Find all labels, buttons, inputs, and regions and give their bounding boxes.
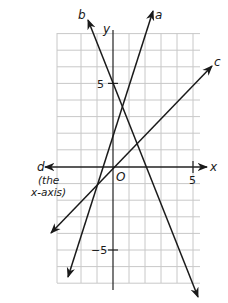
x-tick-5-label: 5 xyxy=(189,174,196,187)
y-axis-label: y xyxy=(102,22,111,36)
line-c-label: c xyxy=(214,55,221,69)
coordinate-plane: a b c d (the x-axis) y x O 5 5 −5 xyxy=(0,0,228,303)
y-tick-5-label: 5 xyxy=(97,78,104,91)
origin-label: O xyxy=(116,170,125,184)
line-d-note-2: x-axis) xyxy=(30,186,66,198)
line-b-label: b xyxy=(78,8,86,22)
y-tick-neg5-label: −5 xyxy=(91,244,107,257)
line-a-label: a xyxy=(155,8,162,22)
line-d-label: d xyxy=(37,160,45,174)
line-d-note-1: (the xyxy=(38,174,59,186)
x-axis-label: x xyxy=(209,160,218,174)
